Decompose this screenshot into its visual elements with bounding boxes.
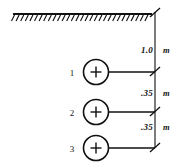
ground-surface [12,14,153,21]
engineering-diagram: 1 2 3 1.0 m .35 m .35 m [0,0,185,163]
dimension-2-unit: m [163,88,170,98]
dimension-3-unit: m [163,122,170,132]
dimension-3-value: .35 [141,122,153,132]
conductor-2-label: 2 [70,108,75,118]
dimension-2-value: .35 [141,88,153,98]
dimension-1-unit: m [163,45,170,55]
conductor-2-group: 2 [70,100,155,125]
conductor-1-group: 1 [70,60,155,85]
ground-hatching [12,15,148,21]
dimension-1-value: 1.0 [141,45,153,55]
conductor-1-label: 1 [70,68,75,78]
conductor-3-group: 3 [70,136,155,161]
diagram-canvas: 1 2 3 1.0 m .35 m .35 m [0,0,185,163]
conductor-3-label: 3 [70,144,75,154]
